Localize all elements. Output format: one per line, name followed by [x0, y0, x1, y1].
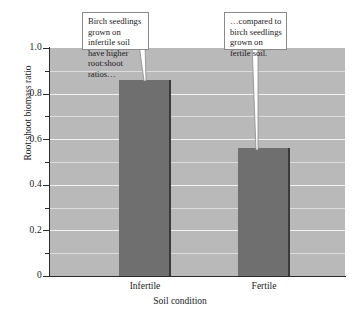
leader-line-fertile: [230, 44, 270, 150]
figure-container: 1.0 0.8 0.6 0.4 0.2 0 Root:shoot biomass…: [0, 0, 360, 318]
bar-fertile[interactable]: [238, 148, 290, 276]
y-tick-minor-0-7: [45, 116, 50, 117]
x-tick-label-fertile: Fertile: [204, 281, 324, 291]
y-tick-label-1-0: 1.0: [2, 43, 42, 53]
y-tick-0-8: [43, 94, 50, 95]
gridline-minor-0-3: [50, 208, 345, 209]
gridline-major-0-8: [50, 94, 345, 95]
x-axis-title: Soil condition: [0, 296, 360, 306]
y-tick-label-0: 0: [2, 271, 42, 281]
x-axis-line: [49, 276, 346, 277]
y-tick-0-6: [43, 139, 50, 140]
callout-fertile[interactable]: …compared to birch seedlings grown on fe…: [224, 12, 287, 50]
x-tick-label-infertile: Infertile: [85, 281, 205, 291]
y-tick-0: [43, 276, 50, 277]
gridline-minor-0-5: [50, 162, 345, 163]
figure-caption-fragment: [6, 308, 336, 317]
y-tick-1-0: [43, 48, 50, 49]
y-tick-minor-0-5: [45, 162, 50, 163]
gridline-minor-0-7: [50, 116, 345, 117]
gridline-minor-0-1: [50, 253, 345, 254]
y-tick-minor-0-3: [45, 208, 50, 209]
gridline-major-0-4: [50, 185, 345, 186]
gridline-major-0-2: [50, 230, 345, 231]
y-tick-0-4: [43, 185, 50, 186]
y-tick-label-0-6: 0.6: [2, 135, 42, 145]
callout-infertile[interactable]: Birch seedlings grown on infertile soil …: [82, 12, 149, 50]
gridline-major-0-6: [50, 139, 345, 140]
bar-infertile[interactable]: [119, 80, 171, 276]
y-axis-title: Root:shoot biomass ratio: [23, 33, 33, 193]
y-tick-minor-0-1: [45, 253, 50, 254]
plot-area: [50, 48, 345, 276]
y-tick-0-2: [43, 230, 50, 231]
y-tick-label-0-2: 0.2: [2, 226, 42, 236]
y-tick-label-0-4: 0.4: [2, 180, 42, 190]
y-tick-label-0-8: 0.8: [2, 89, 42, 99]
y-tick-minor-0-9: [45, 71, 50, 72]
